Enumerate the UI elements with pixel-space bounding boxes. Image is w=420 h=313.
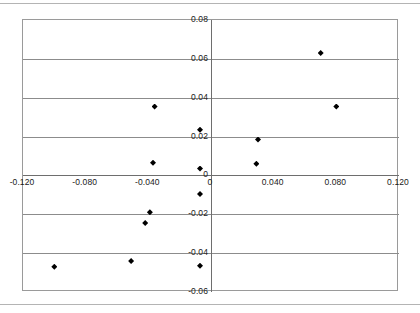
diamond-marker-icon [142,220,148,226]
y-tick-label: 0 [0,169,208,179]
top-divider-rule [0,3,420,4]
chart-canvas: -0.120-0.080-0.04000.0400.0800.120 0.080… [0,0,420,313]
diamond-marker-icon [152,104,158,110]
y-tick-label: -0.06 [0,286,208,296]
x-tick-label: 0 [208,177,213,187]
y-axis-zero-line [211,20,212,292]
data-point [197,263,203,269]
x-tick-label: 0.120 [387,177,409,187]
bottom-divider-rule [0,304,420,305]
data-point [152,104,158,110]
x-tick-label: 0.080 [324,177,346,187]
y-tick-label: 0.06 [0,53,208,63]
y-tick-label: -0.04 [0,247,208,257]
y-tick-label: 0.08 [0,14,208,24]
diamond-marker-icon [197,191,203,197]
x-tick-label: 0.040 [262,177,284,187]
data-point [318,50,324,56]
diamond-marker-icon [253,161,259,167]
data-point [51,264,57,270]
diamond-marker-icon [128,258,134,264]
data-point [333,104,339,110]
diamond-marker-icon [197,263,203,269]
data-point [142,220,148,226]
data-point [197,191,203,197]
diamond-marker-icon [318,50,324,56]
y-tick-label: 0.04 [0,92,208,102]
diamond-marker-icon [51,264,57,270]
diamond-marker-icon [150,160,156,166]
y-tick-label: 0.02 [0,131,208,141]
data-point [255,137,261,143]
diamond-marker-icon [333,104,339,110]
data-point [253,161,259,167]
diamond-marker-icon [255,137,261,143]
data-point [128,258,134,264]
y-tick-label: -0.02 [0,208,208,218]
data-point [150,160,156,166]
